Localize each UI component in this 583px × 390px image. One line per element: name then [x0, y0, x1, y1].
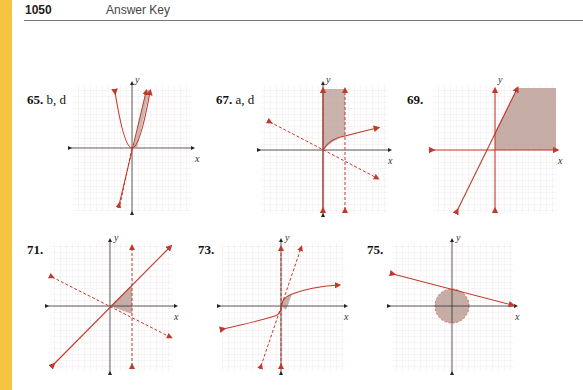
graph-65: x y: [70, 74, 200, 213]
svg-text:y: y: [325, 74, 331, 85]
svg-text:x: x: [173, 311, 179, 322]
graph-71: x y: [47, 232, 179, 373]
graph-73: x y: [219, 232, 349, 373]
svg-text:x: x: [343, 311, 349, 322]
svg-text:y: y: [497, 74, 503, 85]
svg-text:x: x: [514, 311, 520, 322]
svg-text:x: x: [194, 153, 200, 164]
graphs-canvas: x y x y x y x y: [0, 0, 583, 390]
graph-69: x y: [432, 74, 563, 213]
graph-67: x y: [259, 74, 393, 215]
graph-75: x y: [389, 232, 520, 373]
svg-text:y: y: [134, 74, 140, 85]
svg-text:x: x: [387, 155, 393, 166]
svg-text:x: x: [557, 155, 563, 166]
svg-text:y: y: [113, 232, 119, 243]
svg-text:y: y: [284, 232, 290, 243]
svg-text:y: y: [455, 232, 461, 243]
